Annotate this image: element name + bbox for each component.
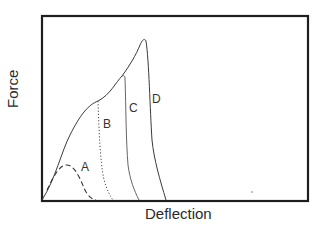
- force-deflection-plot: [0, 0, 324, 234]
- x-axis-label: Deflection: [145, 205, 212, 222]
- curve-label-a: A: [81, 160, 89, 174]
- curve-label-d: D: [152, 92, 161, 106]
- curve-c: [122, 76, 139, 200]
- curve-label-b: B: [103, 117, 111, 131]
- curve-b: [98, 101, 113, 200]
- y-axis-label: Force: [4, 70, 21, 108]
- curve-label-c: C: [129, 101, 138, 115]
